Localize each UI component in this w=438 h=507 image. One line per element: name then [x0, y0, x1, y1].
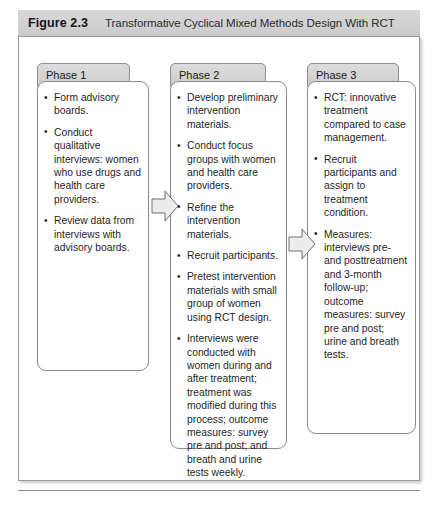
- phase-column-1: Phase 1 Form advisory boards. Conduct qu…: [37, 63, 149, 371]
- phase-tab-2-label: Phase 2: [179, 69, 219, 81]
- list-item: Conduct focus groups with women and heal…: [175, 139, 279, 193]
- bottom-divider: [18, 490, 420, 491]
- figure-caption-bar: Figure 2.3 Transformative Cyclical Mixed…: [18, 10, 420, 36]
- phase-column-2: Phase 2 Develop preliminary intervention…: [170, 63, 287, 449]
- arrow-phase1-to-phase2-icon: [151, 189, 179, 223]
- list-item: RCT: innovative treatment compared to ca…: [312, 91, 408, 145]
- phase-tab-1-label: Phase 1: [46, 69, 86, 81]
- phase-2-list: Develop preliminary intervention materia…: [175, 91, 279, 480]
- diagram-frame: Phase 1 Form advisory boards. Conduct qu…: [18, 36, 420, 481]
- phase-tab-3-label: Phase 3: [316, 69, 356, 81]
- phase-body-1: Form advisory boards. Conduct qualitativ…: [37, 81, 149, 371]
- figure-title: Transformative Cyclical Mixed Methods De…: [105, 17, 395, 29]
- list-item: Recruit participants and assign to treat…: [312, 153, 408, 220]
- figure-number: Figure 2.3: [28, 16, 88, 30]
- phase-body-3: RCT: innovative treatment compared to ca…: [307, 81, 416, 434]
- list-item: Conduct qualitative interviews: women wh…: [42, 126, 141, 206]
- phase-1-list: Form advisory boards. Conduct qualitativ…: [42, 91, 141, 254]
- list-item: Recruit participants.: [175, 249, 279, 262]
- phase-body-2: Develop preliminary intervention materia…: [170, 81, 287, 449]
- list-item: Form advisory boards.: [42, 91, 141, 118]
- list-item: Refine the intervention materials.: [175, 201, 279, 241]
- list-item: Develop preliminary intervention materia…: [175, 91, 279, 131]
- phase-column-3: Phase 3 RCT: innovative treatment compar…: [307, 63, 416, 434]
- list-item: Review data from interviews with advisor…: [42, 214, 141, 254]
- arrow-phase2-to-phase3-icon: [288, 227, 316, 261]
- list-item: Pretest intervention materials with smal…: [175, 270, 279, 324]
- list-item: Measures: interviews pre- and posttreatm…: [312, 228, 408, 362]
- list-item: Interviews were conducted with women dur…: [175, 332, 279, 479]
- phase-3-list: RCT: innovative treatment compared to ca…: [312, 91, 408, 362]
